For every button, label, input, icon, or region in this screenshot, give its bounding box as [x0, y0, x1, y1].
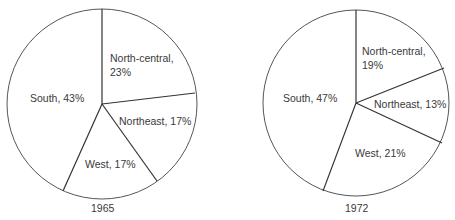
- slice-label-north-central: North-central,: [362, 45, 426, 57]
- slice-label-northeast: Northeast, 13%: [374, 98, 446, 110]
- slice-label-west: West, 17%: [85, 158, 136, 170]
- slice-label-west: West, 21%: [355, 147, 406, 159]
- pie-chart-1972: North-central, 19% South, 47% Northeast,…: [263, 10, 449, 214]
- slice-label-north-central: North-central,: [110, 52, 174, 64]
- slice-label-northeast: Northeast, 17%: [119, 115, 191, 127]
- pie-year-label: 1972: [345, 202, 369, 214]
- pie-year-label: 1965: [91, 202, 115, 214]
- slice-label-north-central-value: 23%: [110, 66, 131, 78]
- pie-chart-1965: North-central, 23% South, 43% Northeast,…: [7, 9, 197, 214]
- slice-label-north-central-value: 19%: [362, 59, 383, 71]
- pie-charts-canvas: North-central, 23% South, 43% Northeast,…: [0, 0, 455, 220]
- slice-label-south: South, 43%: [30, 92, 84, 104]
- slice-label-south: South, 47%: [283, 92, 337, 104]
